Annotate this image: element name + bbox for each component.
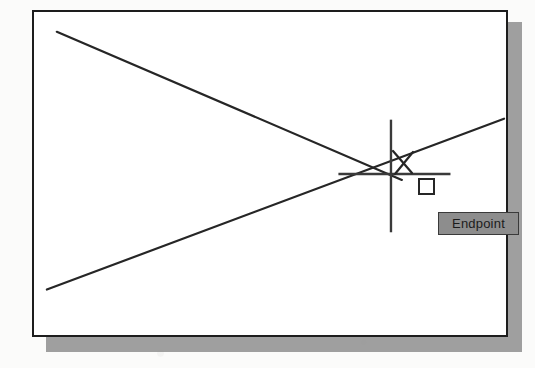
drawing-canvas (34, 12, 506, 335)
cad-figure: Endpoint (0, 0, 535, 368)
descending-line (57, 32, 402, 180)
endpoint-snap-marker (418, 178, 435, 195)
snap-tooltip-label: Endpoint (452, 216, 505, 231)
crossing-point-x-marker (390, 148, 416, 176)
drawing-frame: Endpoint (32, 10, 508, 337)
snap-tooltip: Endpoint (438, 212, 519, 235)
ascending-line (47, 119, 504, 290)
